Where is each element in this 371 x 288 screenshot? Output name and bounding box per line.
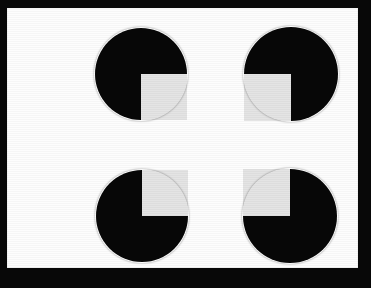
inducer-disc-top-left: [95, 28, 187, 120]
notch-quadrant-bottom-left: [244, 74, 291, 121]
inducer-disc-top-right: [244, 27, 338, 121]
illusion-card: [7, 8, 358, 268]
notch-quadrant-top-right: [142, 170, 188, 216]
notch-quadrant-top-left: [243, 169, 290, 216]
notch-quadrant-bottom-right: [141, 74, 187, 120]
illusion-figure: Kanizsa square illusion Four black pac-m…: [0, 0, 371, 288]
inducer-disc-bottom-right: [243, 169, 337, 263]
inducer-disc-bottom-left: [96, 170, 188, 262]
